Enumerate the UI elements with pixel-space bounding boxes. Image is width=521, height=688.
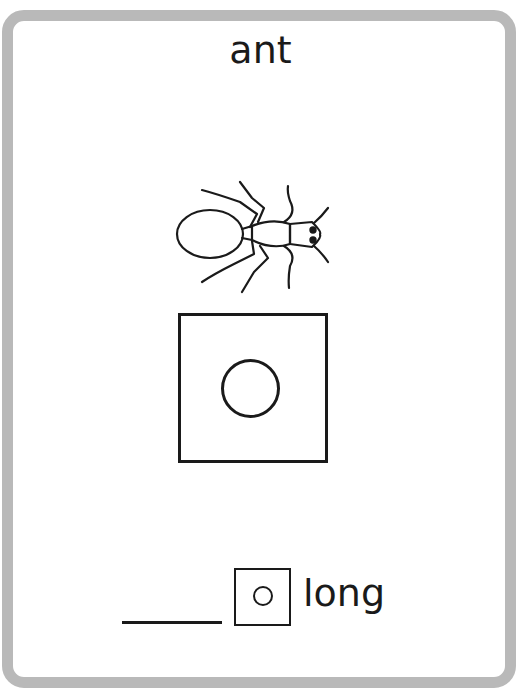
answer-blank-line[interactable] xyxy=(122,621,222,624)
ant-icon xyxy=(172,174,337,296)
long-vowel-circle-icon xyxy=(221,359,280,418)
small-circle-icon xyxy=(253,586,273,606)
vowel-label: long xyxy=(303,574,385,612)
card-title: ant xyxy=(0,28,521,72)
